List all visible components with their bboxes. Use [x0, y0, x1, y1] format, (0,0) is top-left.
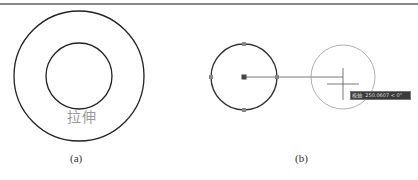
stretch-label: 拉伸	[67, 106, 97, 126]
figure-b	[209, 42, 375, 112]
top-grip[interactable]	[242, 42, 246, 46]
right-grip[interactable]	[275, 75, 279, 79]
caption-a: (a)	[70, 152, 82, 164]
inner-circle	[46, 43, 112, 109]
diagram-canvas	[0, 0, 418, 180]
caption-b: (b)	[295, 152, 308, 164]
bottom-grip[interactable]	[242, 108, 246, 112]
center-grip[interactable]	[242, 75, 247, 80]
dynamic-input-tooltip: 极轴: 250.0607 < 0°	[350, 91, 411, 100]
left-grip[interactable]	[209, 75, 213, 79]
